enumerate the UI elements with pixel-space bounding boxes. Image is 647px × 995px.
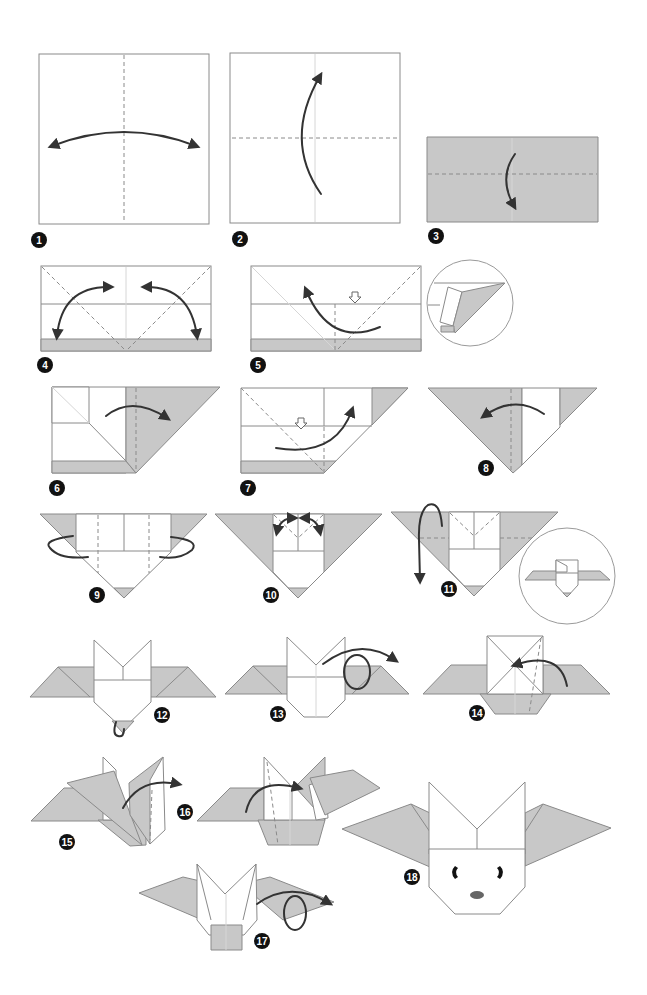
step-10-badge: 10: [263, 587, 279, 603]
step-11-detail-circle: [519, 528, 615, 624]
svg-text:12: 12: [156, 710, 168, 721]
step-9-diagram: [40, 514, 207, 598]
step-1-badge: 1: [31, 232, 47, 248]
step-3-diagram: [427, 137, 598, 222]
step-16-badge: 16: [177, 804, 193, 820]
step-12-diagram: [30, 640, 216, 736]
step-1-diagram: [39, 54, 209, 224]
origami-diagram: 1 2 3 4: [0, 0, 647, 995]
svg-text:9: 9: [94, 590, 100, 601]
step-14-diagram: [423, 636, 610, 714]
step-18-finished-bat: [342, 782, 611, 914]
step-18-badge: 18: [404, 869, 420, 885]
step-5-badge: 5: [250, 357, 266, 373]
svg-text:14: 14: [471, 708, 483, 719]
svg-text:1: 1: [36, 235, 42, 246]
svg-text:7: 7: [245, 483, 251, 494]
svg-text:16: 16: [179, 807, 191, 818]
svg-text:17: 17: [256, 936, 268, 947]
svg-text:15: 15: [61, 837, 73, 848]
step-6-badge: 6: [49, 480, 65, 496]
svg-text:8: 8: [483, 463, 489, 474]
svg-text:10: 10: [265, 590, 277, 601]
svg-text:5: 5: [255, 360, 261, 371]
step-17-diagram: [139, 864, 334, 950]
step-8-badge: 8: [478, 460, 494, 476]
step-2-diagram: [230, 53, 400, 223]
step-5-detail-circle: [427, 260, 513, 346]
step-2-badge: 2: [232, 231, 248, 247]
step-15-badge: 15: [59, 834, 75, 850]
step-14-badge: 14: [469, 705, 485, 721]
step-17-badge: 17: [254, 933, 270, 949]
svg-text:3: 3: [433, 231, 439, 242]
svg-text:4: 4: [42, 360, 48, 371]
step-15-diagram: [31, 757, 178, 846]
face: [429, 849, 525, 914]
step-7-diagram: [241, 388, 408, 473]
step-5-diagram: [251, 266, 421, 351]
step-4-badge: 4: [37, 357, 53, 373]
step-7-badge: 7: [240, 480, 256, 496]
svg-text:13: 13: [272, 709, 284, 720]
svg-text:11: 11: [444, 584, 455, 595]
step-6-diagram: [52, 387, 220, 473]
step-12-badge: 12: [154, 707, 170, 723]
step-9-badge: 9: [89, 587, 105, 603]
svg-text:2: 2: [237, 234, 243, 245]
step-8-diagram: [428, 388, 597, 473]
step-10-diagram: [215, 514, 382, 598]
svg-text:18: 18: [406, 872, 418, 883]
step-13-diagram: [225, 637, 409, 717]
svg-text:6: 6: [54, 483, 60, 494]
step-3-badge: 3: [428, 228, 444, 244]
left-wing: [342, 804, 430, 867]
nose: [470, 891, 484, 899]
right-wing: [525, 804, 611, 866]
step-11-badge: 11: [441, 581, 457, 597]
step-4-diagram: [41, 266, 211, 351]
step-13-badge: 13: [270, 706, 286, 722]
